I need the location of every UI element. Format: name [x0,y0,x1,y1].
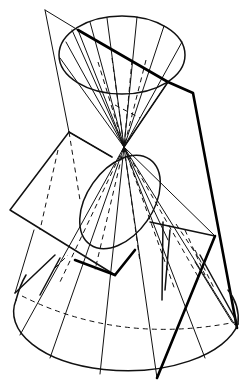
lower-cone-rim-back [22,296,236,329]
double-cone-diagram [0,0,250,387]
ellipse-section [63,140,177,263]
conic-sections-drawing [0,0,250,387]
lower-cone-rim-front [14,300,238,371]
ellipse-plane [10,132,237,378]
hyperbola-plane [15,10,112,293]
